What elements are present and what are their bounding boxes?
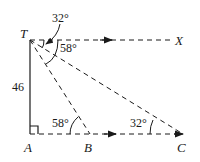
label-angle-top-58: 58° [60,41,77,55]
label-x: X [174,33,184,48]
angle-arc-top-32 [42,40,44,48]
label-angle-top-32: 32° [52,11,69,25]
label-b: B [84,140,92,155]
label-c: C [177,140,186,155]
angle-of-depression-diagram: T X A B C 46 32° 58° 58° 32° [0,0,200,162]
angle-arc-top-58 [46,40,58,64]
label-height: 46 [12,80,24,94]
angle-arc-c [150,120,153,134]
label-t: T [20,26,28,41]
right-angle-marker [30,126,38,134]
angle-arc-b [70,117,78,134]
label-a: A [23,140,32,155]
label-angle-c: 32° [130,116,147,130]
label-angle-b: 58° [52,116,69,130]
